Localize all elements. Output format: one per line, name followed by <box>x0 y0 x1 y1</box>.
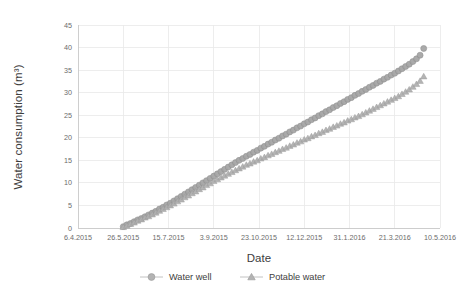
x-tick-label: 21.3.2016 <box>379 233 411 242</box>
x-tick-label: 3.9.2015 <box>200 233 228 242</box>
legend-item-water-well[interactable]: Water well <box>140 272 212 282</box>
legend-label-potable-water: Potable water <box>269 272 325 282</box>
y-tick-label: 20 <box>64 133 72 142</box>
y-tick-label: 15 <box>64 156 72 165</box>
x-tick-label: 31.1.2016 <box>334 233 366 242</box>
y-tick-label: 30 <box>64 88 72 97</box>
legend-item-potable-water[interactable]: Potable water <box>240 272 325 282</box>
y-tick-label: 10 <box>64 178 72 187</box>
y-tick-label: 45 <box>64 21 72 30</box>
x-tick-label: 12.12.2015 <box>286 233 322 242</box>
x-axis-title: Date <box>247 252 272 264</box>
data-point-circle <box>421 45 427 51</box>
x-tick-label: 6.4.2015 <box>64 233 92 242</box>
x-tick-label: 23.10.2015 <box>241 233 277 242</box>
y-tick-label: 25 <box>64 111 72 120</box>
x-tick-labels: 6.4.201526.5.201515.7.20153.9.201523.10.… <box>64 233 456 242</box>
data-point-circle <box>417 52 423 58</box>
chart-canvas: 051015202530354045 6.4.201526.5.201515.7… <box>0 0 476 294</box>
x-tick-label: 26.5.2015 <box>107 233 139 242</box>
legend-label-water-well: Water well <box>169 272 212 282</box>
legend: Water well Potable water <box>140 272 325 282</box>
y-tick-label: 5 <box>68 201 72 210</box>
water-consumption-chart: 051015202530354045 6.4.201526.5.201515.7… <box>0 0 476 294</box>
series-potable-water <box>120 73 427 229</box>
y-axis-title: Water consumption (m³) <box>12 64 24 189</box>
y-tick-label: 35 <box>64 66 72 75</box>
y-tick-label: 40 <box>64 43 72 52</box>
data-point-triangle <box>420 73 427 79</box>
x-tick-label: 15.7.2015 <box>153 233 185 242</box>
gridlines-vertical <box>123 25 440 228</box>
y-tick-label: 0 <box>68 224 72 233</box>
y-tick-labels: 051015202530354045 <box>64 21 72 233</box>
legend-marker-circle-icon <box>148 274 155 281</box>
x-tick-label: 10.5.2016 <box>424 233 456 242</box>
